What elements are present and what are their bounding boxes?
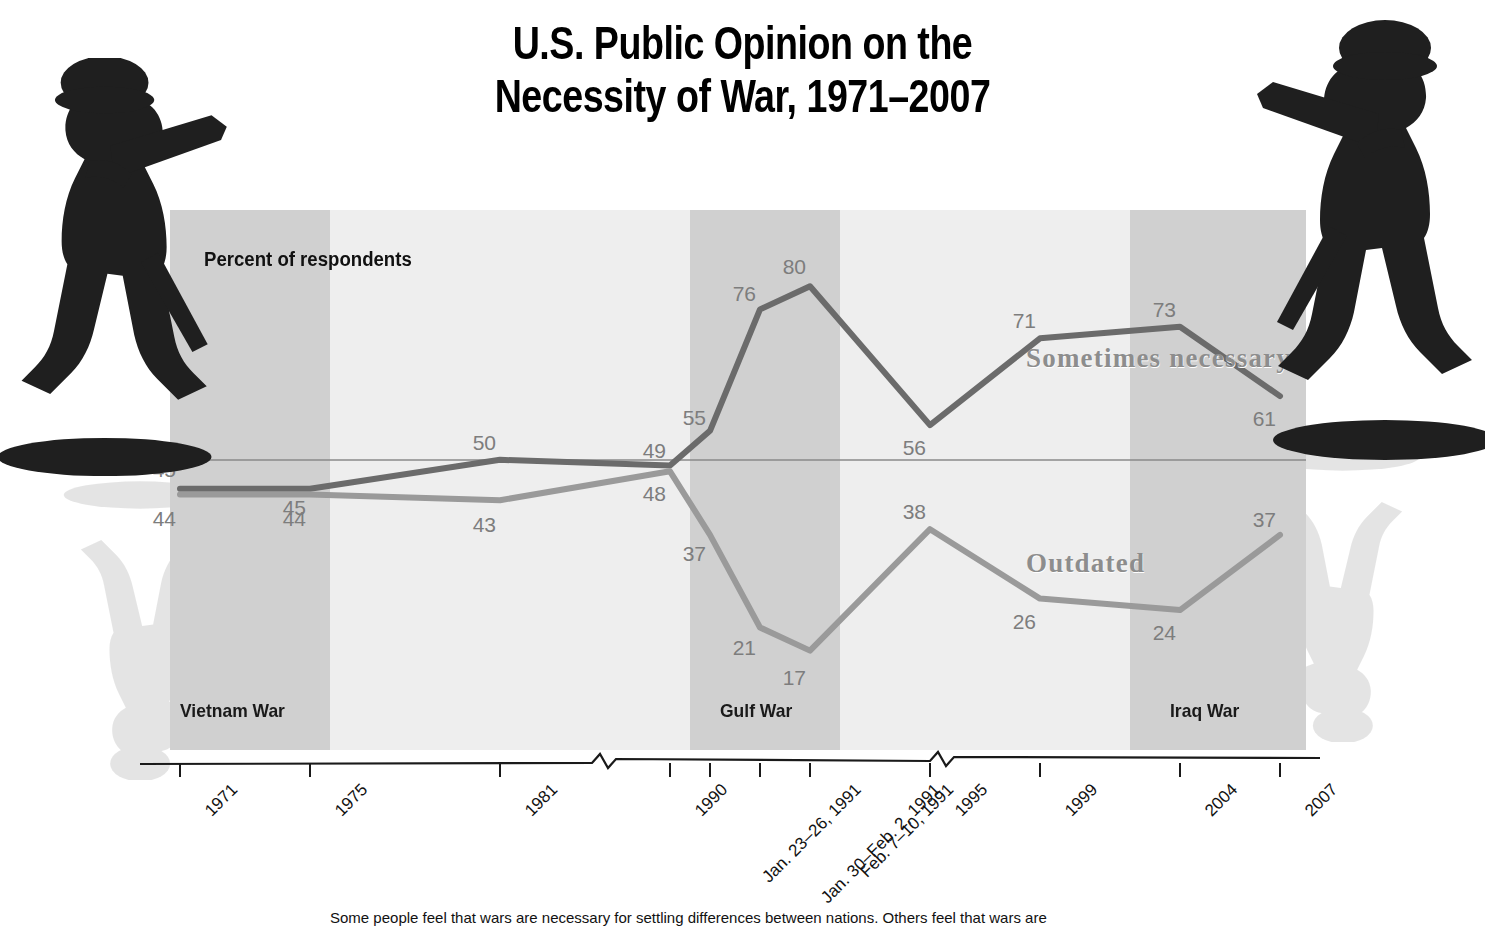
infographic-page: U.S. Public Opinion on the Necessity of …	[0, 0, 1485, 930]
x-axis	[140, 748, 1320, 778]
data-point-label: 26	[1013, 610, 1036, 633]
x-axis-tick-label: 1975	[331, 780, 372, 821]
figure-caption: Some people feel that wars are necessary…	[330, 908, 1460, 927]
x-axis-tick-label: 2007	[1301, 780, 1342, 821]
title-line-1: U.S. Public Opinion on the	[149, 16, 1337, 69]
data-point-label: 37	[683, 542, 706, 565]
data-point-label: 45	[153, 458, 176, 481]
x-axis-tick-label: 1981	[521, 780, 562, 821]
series-labels-outdated: 4444434837211738262437	[153, 482, 1276, 688]
axis-ticks	[180, 763, 1280, 777]
data-point-label: 44	[283, 507, 307, 530]
data-point-label: 48	[643, 482, 666, 505]
data-point-label: 24	[1153, 621, 1177, 644]
data-point-label: 21	[733, 636, 756, 659]
data-point-label: 44	[153, 507, 177, 530]
x-axis-tick-label: 1995	[951, 780, 992, 821]
x-axis-tick-label: 2004	[1201, 780, 1242, 821]
series-label-outdated: Outdated	[1026, 548, 1145, 579]
page-title: U.S. Public Opinion on the Necessity of …	[0, 16, 1485, 122]
x-axis-tick-label: 1999	[1061, 780, 1102, 821]
series-line-sometimes-necessary	[180, 286, 1280, 488]
data-point-label: 43	[473, 513, 496, 536]
data-point-label: 49	[643, 439, 666, 462]
data-point-label: 71	[1013, 309, 1036, 332]
data-point-label: 37	[1253, 508, 1276, 531]
title-line-2: Necessity of War, 1971–2007	[149, 69, 1337, 122]
data-point-label: 38	[903, 500, 926, 523]
x-axis-tick-label: 1971	[201, 780, 242, 821]
data-point-label: 80	[783, 255, 806, 278]
data-point-label: 55	[683, 406, 706, 429]
x-axis-tick-label: Feb. 7–10, 1991	[856, 780, 958, 882]
data-point-label: 50	[473, 431, 496, 454]
series-labels-sometimes-necessary: 4545504955768056717361	[153, 255, 1276, 518]
data-point-label: 73	[1153, 298, 1176, 321]
chart-lines: 4545504955768056717361 44444348372117382…	[170, 210, 1306, 750]
data-point-label: 56	[903, 436, 926, 459]
data-point-label: 17	[783, 666, 806, 689]
data-point-label: 61	[1253, 407, 1276, 430]
chart-plot-area: Vietnam War Gulf War Iraq War Percent of…	[170, 210, 1306, 750]
data-point-label: 76	[733, 282, 756, 305]
axis-line	[140, 752, 1320, 768]
series-label-sometimes-necessary: Sometimes necessary	[1026, 343, 1291, 374]
x-axis-tick-label: 1990	[691, 780, 732, 821]
